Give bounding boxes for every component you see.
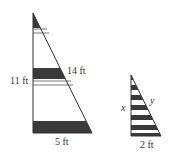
large-hypotenuse-label: 14 ft bbox=[67, 66, 86, 76]
large-height-label: 11 ft bbox=[10, 76, 28, 86]
large-triangle bbox=[30, 12, 100, 133]
small-hypotenuse-label: y bbox=[150, 96, 154, 106]
small-height-label: x bbox=[121, 103, 125, 113]
small-base-label: 2 ft bbox=[140, 140, 154, 150]
large-base-label: 5 ft bbox=[55, 137, 69, 147]
small-triangle bbox=[128, 75, 168, 136]
large-tip-band bbox=[30, 12, 100, 28]
